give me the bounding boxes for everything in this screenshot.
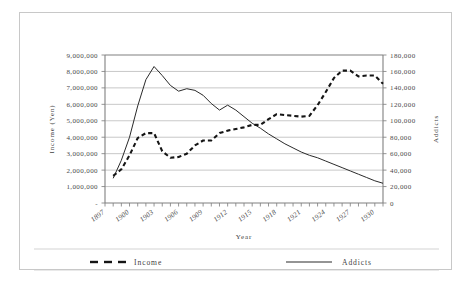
right-axis-title: Addicts	[432, 115, 440, 143]
right-tick-label: 20,000	[390, 183, 412, 191]
left-tick-label: 8,000,000	[66, 68, 98, 76]
chart-figure: -1,000,0002,000,0003,000,0004,000,0005,0…	[19, 12, 452, 270]
left-tick-label: 4,000,000	[66, 134, 98, 142]
left-tick-label: 3,000,000	[66, 150, 98, 158]
x-tick-label: 1921	[286, 208, 303, 224]
gridlines-group	[105, 71, 383, 186]
x-tick-label: 1897	[89, 208, 106, 224]
x-tick-label: 1912	[212, 208, 229, 224]
right-tick-label: 60,000	[390, 150, 412, 158]
legend-label-addicts: Addicts	[342, 258, 372, 267]
x-tick-label: 1915	[237, 208, 254, 224]
left-tick-label: 2,000,000	[66, 167, 98, 175]
right-tick-label: 100,000	[390, 117, 416, 125]
x-tick-label: 1918	[261, 208, 278, 224]
right-tick-labels-group: 020,00040,00060,00080,000100,000120,0001…	[390, 52, 416, 208]
left-tick-label: 9,000,000	[66, 52, 98, 60]
legend-label-income: Income	[134, 258, 162, 267]
x-tick-label: 1924	[310, 208, 327, 224]
left-tick-label: 7,000,000	[66, 84, 98, 92]
series-line-income	[113, 71, 383, 176]
left-tick-label: 1,000,000	[66, 183, 98, 191]
left-tick-label: -	[95, 200, 98, 208]
right-tick-label: 120,000	[390, 101, 416, 109]
x-tick-label: 1930	[359, 208, 376, 224]
left-tick-label: 6,000,000	[66, 101, 98, 109]
right-tick-label: 160,000	[390, 68, 416, 76]
series-line-addicts	[113, 67, 383, 184]
x-tick-label: 1906	[163, 208, 180, 224]
right-tick-label: 40,000	[390, 167, 412, 175]
right-tick-label: 180,000	[390, 52, 416, 60]
x-tick-label: 1900	[114, 208, 131, 224]
right-tick-label: 140,000	[390, 84, 416, 92]
x-tick-label: 1909	[187, 208, 204, 224]
right-tick-label: 80,000	[390, 134, 412, 142]
x-tick-label: 1903	[138, 208, 155, 224]
right-tick-label: 0	[390, 200, 394, 208]
left-tick-label: 5,000,000	[66, 117, 98, 125]
x-tick-label: 1927	[335, 208, 352, 224]
left-tick-labels-group: -1,000,0002,000,0003,000,0004,000,0005,0…	[66, 52, 98, 208]
chart-canvas: -1,000,0002,000,0003,000,0004,000,0005,0…	[20, 13, 453, 271]
x-axis-title: Year	[236, 233, 253, 241]
x-tick-labels-group: 1897190019031906190919121915191819211924…	[89, 208, 376, 224]
left-axis-title: Income (Yen)	[48, 104, 56, 153]
